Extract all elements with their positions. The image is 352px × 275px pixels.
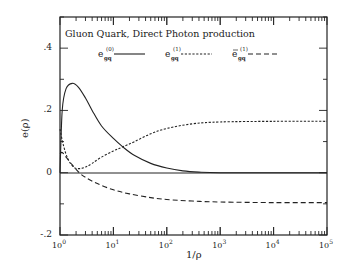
svg-text:e: e: [165, 49, 170, 59]
legend-item-dashed: egq(1): [232, 46, 279, 62]
y-tick-label: .4: [32, 42, 52, 52]
y-tick-label: .2: [32, 104, 52, 114]
legend-item-dotted: egq(1): [165, 46, 212, 62]
x-tick-label: 102: [159, 238, 173, 250]
series-dotted-line: [60, 121, 327, 168]
svg-text:(1): (1): [240, 46, 248, 52]
svg-text:(0): (0): [106, 46, 114, 52]
svg-text:gq: gq: [171, 55, 179, 62]
svg-text:(1): (1): [173, 46, 181, 52]
svg-text:gq: gq: [238, 55, 246, 62]
chart-title: Gluon Quark, Direct Photon production: [65, 28, 255, 39]
series-dashed-line: [60, 152, 327, 202]
svg-text:e: e: [98, 49, 103, 59]
x-tick-label: 104: [266, 238, 280, 250]
x-tick-label: 101: [105, 238, 119, 250]
data-series: [60, 83, 327, 202]
chart-canvas: egq(0)egq(1)egq(1) Gluon Quark, Direct P…: [0, 0, 352, 275]
x-tick-label: 105: [319, 238, 333, 250]
x-tick-label: 100: [52, 238, 66, 250]
svg-text:gq: gq: [104, 55, 112, 62]
svg-text:e: e: [232, 49, 237, 59]
series-solid-line: [60, 83, 327, 172]
y-tick-label: -.2: [32, 229, 52, 239]
legend-item-solid: egq(0): [98, 46, 145, 62]
y-axis-label: e(ρ): [19, 118, 30, 138]
x-tick-label: 103: [212, 238, 226, 250]
x-axis-label: 1/ρ: [186, 249, 202, 260]
legend: egq(0)egq(1)egq(1): [98, 46, 279, 62]
y-tick-label: 0: [32, 167, 52, 177]
